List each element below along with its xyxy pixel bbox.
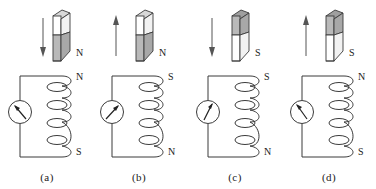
- motion-arrow-up-icon: [303, 15, 309, 56]
- magnet-pole-label: S: [349, 47, 355, 58]
- panel-c-drawing: S S N: [188, 0, 282, 189]
- motion-arrow-up-icon: [113, 15, 119, 56]
- coil: [47, 76, 71, 157]
- panel-d-drawing: S N S: [282, 0, 376, 189]
- galvanometer: [9, 101, 32, 124]
- galvanometer: [291, 101, 314, 124]
- panel-b: N S N: [92, 0, 186, 189]
- coil-top-pole-label: S: [168, 71, 174, 82]
- bar-magnet: [232, 10, 249, 61]
- panel-caption: (b): [92, 171, 186, 183]
- motion-arrow-down-icon: [209, 18, 215, 57]
- panel-b-drawing: N S N: [92, 0, 186, 189]
- coil: [139, 76, 163, 157]
- coil-bottom-pole-label: N: [264, 146, 271, 157]
- galvanometer: [101, 101, 124, 124]
- galvanometer: [197, 101, 220, 124]
- coil-bottom-pole-label: S: [76, 146, 82, 157]
- panel-c: S S N: [188, 0, 282, 189]
- induction-figure: N N S: [0, 0, 376, 189]
- panel-a-drawing: N N S: [0, 0, 94, 189]
- coil-bottom-pole-label: N: [168, 146, 175, 157]
- coil-bottom-pole-label: S: [358, 146, 364, 157]
- magnet-pole-label: S: [255, 47, 261, 58]
- panel-caption: (c): [188, 171, 282, 183]
- coil-top-pole-label: N: [76, 71, 83, 82]
- bar-magnet: [326, 10, 343, 61]
- coil: [329, 76, 353, 157]
- bar-magnet: [53, 10, 70, 61]
- magnet-pole-label: N: [159, 47, 166, 58]
- motion-arrow-down-icon: [40, 18, 46, 57]
- bar-magnet: [136, 10, 153, 61]
- panel-caption: (a): [0, 171, 94, 183]
- coil-top-pole-label: N: [358, 71, 365, 82]
- coil-top-pole-label: S: [264, 71, 270, 82]
- panel-a: N N S: [0, 0, 94, 189]
- coil: [235, 76, 259, 157]
- magnet-pole-label: N: [76, 47, 83, 58]
- panel-d: S N S: [282, 0, 376, 189]
- panel-caption: (d): [282, 171, 376, 183]
